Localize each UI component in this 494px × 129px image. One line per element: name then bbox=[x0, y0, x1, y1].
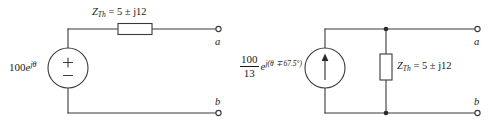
norton-impedance-subscript: Th bbox=[403, 64, 411, 73]
thevenin-impedance-subscript: Th bbox=[98, 10, 106, 19]
norton-circuit-group bbox=[305, 26, 480, 115]
norton-top-junction-dot bbox=[384, 27, 389, 32]
norton-bottom-junction-dot bbox=[384, 111, 389, 116]
norton-source-denominator: 13 bbox=[240, 68, 259, 80]
norton-source-exponential: ej(θ ∓ 67.5°) bbox=[261, 60, 303, 72]
thevenin-terminal-b-label: b bbox=[215, 97, 220, 108]
norton-source-fraction: 100 13 bbox=[240, 54, 259, 79]
norton-impedance-box bbox=[380, 54, 392, 80]
norton-source-exponent-arg: j(θ ∓ 67.5°) bbox=[265, 59, 302, 68]
thevenin-terminal-b-ring bbox=[216, 110, 221, 115]
thevenin-impedance-label: ZTh = 5 ± j12 bbox=[92, 7, 147, 18]
norton-impedance-label: ZTh = 5 ± j12 bbox=[397, 61, 452, 72]
thevenin-impedance-value: 5 ± j12 bbox=[117, 6, 147, 17]
thevenin-source-exponent: jθ bbox=[30, 60, 36, 69]
norton-impedance-value: 5 ± j12 bbox=[422, 60, 452, 71]
thevenin-circuit-group bbox=[48, 24, 221, 116]
norton-terminal-b-label: b bbox=[474, 97, 479, 108]
norton-terminal-a-label: a bbox=[474, 37, 479, 48]
thevenin-voltage-source-circle bbox=[48, 48, 88, 88]
thevenin-terminal-a-label: a bbox=[215, 37, 220, 48]
thevenin-source-magnitude: 100 bbox=[9, 61, 26, 73]
thevenin-terminal-a-ring bbox=[216, 26, 221, 31]
norton-terminal-b-ring bbox=[475, 110, 480, 115]
norton-source-numerator: 100 bbox=[240, 54, 259, 66]
norton-source-label: 100 13 ej(θ ∓ 67.5°) bbox=[240, 54, 302, 79]
thevenin-source-label: 100ejθ bbox=[9, 61, 37, 73]
norton-terminal-a-ring bbox=[475, 26, 480, 31]
thevenin-impedance-box bbox=[118, 24, 152, 35]
circuit-figure: ZTh = 5 ± j12 100ejθ a b 100 13 ej(θ ∓ 6… bbox=[0, 0, 494, 129]
